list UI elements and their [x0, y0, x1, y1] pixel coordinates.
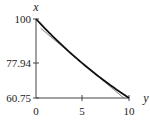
y-tick-label: 77.94 [6, 57, 31, 69]
chart: 100 77.94 60.75 0 5 10 x y [0, 0, 150, 126]
y-tick-label: 60.75 [6, 92, 31, 104]
y-axis-label: x [32, 0, 39, 14]
y-tick-label: 100 [15, 13, 32, 25]
x-axis-label: y [142, 91, 149, 105]
x-tick-label: 0 [33, 105, 39, 117]
x-tick-label: 10 [124, 105, 136, 117]
decay-curve [36, 19, 129, 98]
x-tick-label: 5 [79, 105, 85, 117]
